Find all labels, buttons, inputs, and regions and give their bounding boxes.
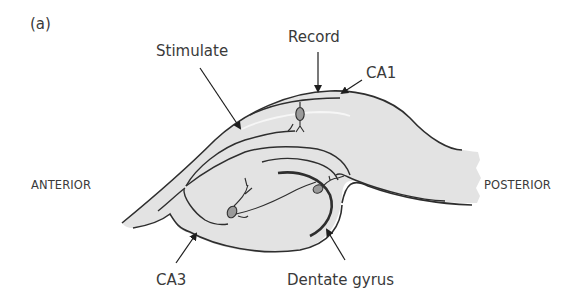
stimulate-label: Stimulate [156,44,228,59]
stimulate-arrow [200,68,240,128]
ca3-arrow [176,234,196,263]
panel-label: (a) [30,17,51,32]
ca1-pyramidal-cell [296,108,304,121]
ca3-label: CA3 [156,273,186,288]
posterior-label: POSTERIOR [484,180,551,192]
ca1-label: CA1 [366,66,396,81]
dentate-gyrus-label: Dentate gyrus [287,273,394,288]
dentate-gyrus-arrow [327,230,345,260]
ca1-arrow [342,80,362,93]
anterior-label: ANTERIOR [31,180,91,192]
hippocampus-diagram: (a) Stimulate Record CA1 ANTERIOR POSTER… [0,0,588,306]
record-label: Record [288,30,340,45]
